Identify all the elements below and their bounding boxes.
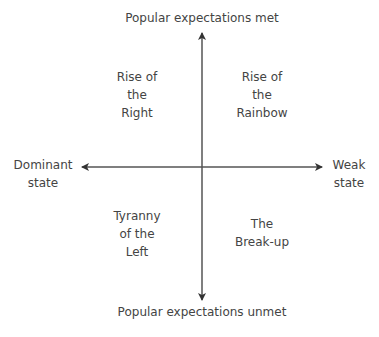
quadrant-text: Tyranny: [102, 207, 172, 225]
quadrant-text: Break-up: [222, 233, 302, 251]
quadrant-text: the: [222, 86, 302, 104]
quadrant-text: Rise of: [222, 68, 302, 86]
quadrant-text: The: [222, 215, 302, 233]
quadrant-top-right: Rise of the Rainbow: [222, 68, 302, 122]
axis-label-left-line2: state: [8, 174, 78, 192]
axis-label-right: Weak state: [322, 156, 376, 192]
quadrant-text: the: [102, 86, 172, 104]
quadrant-bottom-right: The Break-up: [222, 215, 302, 251]
axis-label-bottom: Popular expectations unmet: [92, 303, 312, 321]
quadrant-text: of the: [102, 225, 172, 243]
axis-label-left: Dominant state: [8, 156, 78, 192]
axis-label-right-line2: state: [322, 174, 376, 192]
quadrant-top-left: Rise of the Right: [102, 68, 172, 122]
axis-label-right-line1: Weak: [322, 156, 376, 174]
quadrant-text: Left: [102, 243, 172, 261]
quadrant-bottom-left: Tyranny of the Left: [102, 207, 172, 261]
quadrant-text: Rainbow: [222, 104, 302, 122]
axis-label-top: Popular expectations met: [102, 9, 302, 27]
quadrant-text: Right: [102, 104, 172, 122]
axis-label-left-line1: Dominant: [8, 156, 78, 174]
quadrant-text: Rise of: [102, 68, 172, 86]
